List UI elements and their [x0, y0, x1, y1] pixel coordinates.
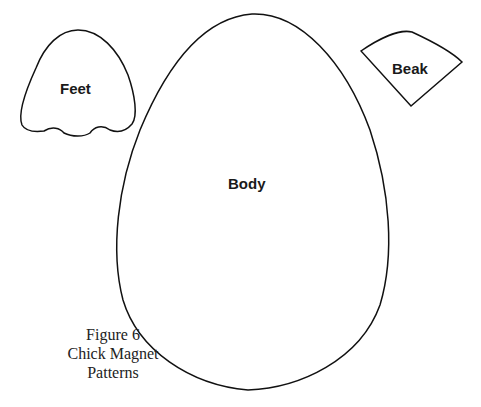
figure-caption: Figure 6 Chick Magnet Patterns [48, 325, 178, 382]
body-label: Body [228, 175, 266, 192]
caption-line-1: Figure 6 [48, 325, 178, 344]
beak-label: Beak [392, 60, 428, 77]
feet-label: Feet [60, 80, 91, 97]
caption-line-2: Chick Magnet [48, 344, 178, 363]
caption-line-3: Patterns [48, 363, 178, 382]
